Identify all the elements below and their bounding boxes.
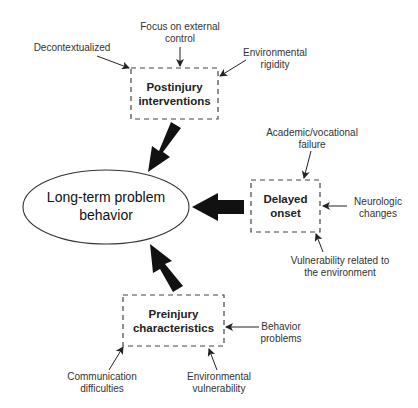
preinjury-label-line-2: characteristics: [123, 321, 224, 335]
arrow-communication: [109, 347, 123, 370]
factor-communication-line-1: Communication: [66, 371, 138, 383]
factor-environmental-rigidity-line-2: rigidity: [240, 59, 310, 71]
center-label-line-2: behavior: [36, 206, 176, 224]
factor-external-control: Focus on external control: [136, 21, 224, 45]
factor-academic-failure: Academic/vocational failure: [262, 127, 362, 151]
factor-environment-vulnerability-line-1: Vulnerability related to: [280, 255, 400, 267]
factor-communication-line-2: difficulties: [66, 383, 138, 395]
factor-behavior-problems-line-2: problems: [258, 333, 304, 345]
factor-neurologic-changes: Neurologic changes: [348, 196, 408, 220]
factor-academic-failure-line-2: failure: [262, 139, 362, 151]
factor-environmental-vulnerability-line-2: vulnerability: [184, 383, 254, 395]
preinjury-label-line-1: Preinjury: [123, 307, 224, 321]
delayed-onset-label: Delayed onset: [251, 192, 320, 220]
factor-environmental-rigidity-line-1: Environmental: [240, 47, 310, 59]
center-label: Long-term problem behavior: [36, 188, 176, 224]
factor-external-control-line-1: Focus on external: [136, 21, 224, 33]
postinjury-label: Postinjury interventions: [131, 80, 218, 108]
factor-external-control-line-2: control: [136, 33, 224, 45]
factor-communication: Communication difficulties: [66, 371, 138, 395]
factor-behavior-problems: Behavior problems: [258, 321, 304, 345]
factor-decontextualized-text: Decontextualized: [30, 42, 114, 54]
delayed-onset-label-line-1: Delayed: [251, 192, 320, 206]
factor-decontextualized: Decontextualized: [30, 42, 114, 54]
delayed-onset-label-line-2: onset: [251, 206, 320, 220]
factor-environmental-vulnerability-line-1: Environmental: [184, 371, 254, 383]
postinjury-label-line-2: interventions: [131, 94, 218, 108]
factor-environmental-rigidity: Environmental rigidity: [240, 47, 310, 71]
arrow-academic-failure: [304, 151, 311, 178]
arrow-preinjury-to-center: [150, 244, 183, 292]
factor-environment-vulnerability: Vulnerability related to the environment: [280, 255, 400, 279]
factor-environmental-vulnerability: Environmental vulnerability: [184, 371, 254, 395]
arrow-delayed-to-center: [192, 193, 244, 221]
factor-neurologic-changes-line-2: changes: [348, 208, 408, 220]
arrow-postinjury-to-center: [148, 122, 181, 172]
arrow-environment-vulnerability: [316, 234, 323, 252]
arrow-decontextualized: [97, 56, 129, 68]
postinjury-label-line-1: Postinjury: [131, 80, 218, 94]
factor-behavior-problems-line-1: Behavior: [258, 321, 304, 333]
arrow-environmental-vulnerability: [209, 349, 217, 370]
factor-neurologic-changes-line-1: Neurologic: [348, 196, 408, 208]
preinjury-label: Preinjury characteristics: [123, 307, 224, 335]
center-label-line-1: Long-term problem: [36, 188, 176, 206]
factor-academic-failure-line-1: Academic/vocational: [262, 127, 362, 139]
factor-environment-vulnerability-line-2: the environment: [280, 267, 400, 279]
